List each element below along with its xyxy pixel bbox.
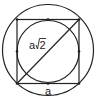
- diagonal-label-radicand: 2: [40, 39, 46, 51]
- geometry-diagram: a 2 a: [0, 0, 97, 100]
- circumscribed-circle: [3, 5, 94, 96]
- diagonal-label-a: a: [29, 39, 36, 51]
- side-label: a: [45, 85, 52, 97]
